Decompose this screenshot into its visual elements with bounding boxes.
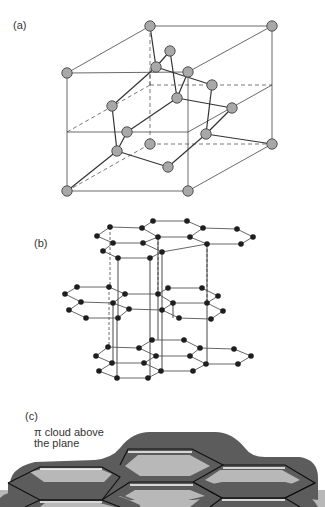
carbon-atom	[149, 337, 155, 343]
carbon-atom	[107, 224, 113, 230]
carbon-bond	[67, 151, 117, 191]
carbon-atom	[207, 80, 217, 90]
cube-edge	[188, 26, 272, 72]
carbon-bond	[117, 151, 168, 167]
carbon-atom	[234, 226, 240, 232]
carbon-atom	[200, 225, 206, 231]
graphene-bond	[179, 318, 211, 319]
graphene-bond	[69, 310, 86, 318]
carbon-atom	[159, 249, 165, 255]
carbon-atom	[105, 344, 111, 350]
carbon-atom	[183, 186, 193, 196]
carbon-atom	[140, 240, 146, 246]
carbon-atom	[184, 218, 190, 224]
carbon-atom	[100, 248, 106, 254]
carbon-atom	[122, 127, 132, 137]
panel-a-label: (a)	[13, 19, 26, 31]
graphene-bond	[162, 244, 207, 252]
carbon-atom	[145, 139, 155, 149]
carbon-atom	[235, 361, 241, 367]
carbon-atom	[107, 101, 117, 111]
pi-cloud-light-fill-1	[30, 469, 112, 482]
carbon-bond	[150, 26, 156, 67]
graphene-bond	[110, 227, 142, 228]
carbon-atom	[74, 284, 80, 290]
carbon-atom	[220, 308, 226, 314]
carbon-atom	[267, 139, 277, 149]
graphene-bond	[143, 243, 162, 252]
graphene-bond	[139, 348, 156, 356]
carbon-atom	[197, 345, 203, 351]
carbon-atom	[187, 353, 193, 359]
carbon-bond	[206, 134, 272, 144]
carbon-atom	[141, 360, 147, 366]
carbon-atom	[187, 234, 193, 240]
carbon-atom	[183, 67, 193, 77]
carbon-atom	[201, 129, 211, 139]
carbon-atom	[159, 307, 165, 313]
carbon-atom	[181, 337, 187, 343]
carbon-atom	[136, 345, 142, 351]
carbon-atom	[165, 46, 175, 56]
graphene-bond	[200, 348, 234, 349]
carbon-atom	[66, 307, 72, 313]
carbon-bond	[177, 98, 232, 108]
carbon-atom	[145, 21, 155, 31]
carbon-bond	[170, 51, 177, 98]
carbon-atom	[126, 306, 132, 312]
graphene-bond	[99, 371, 117, 378]
carbon-atom	[122, 291, 128, 297]
carbon-atom	[238, 241, 244, 247]
carbon-atom	[62, 291, 68, 297]
carbon-atom	[204, 241, 210, 247]
carbon-atom	[106, 284, 112, 290]
carbon-atom	[147, 255, 153, 261]
carbon-atom	[110, 240, 116, 246]
carbon-atom	[250, 234, 256, 240]
carbon-atom	[172, 93, 182, 103]
cube-edge	[188, 144, 272, 191]
carbon-atom	[150, 218, 156, 224]
cube-edge	[67, 72, 188, 73]
carbon-atom	[199, 285, 205, 291]
carbon-atom	[109, 360, 115, 366]
carbon-atom	[62, 186, 72, 196]
carbon-atom	[204, 300, 210, 306]
diamond-structure	[62, 21, 277, 196]
carbon-atom	[115, 315, 121, 321]
carbon-atom	[83, 315, 89, 321]
graphene-bond	[162, 310, 179, 318]
carbon-atom	[215, 293, 221, 299]
cube-edge-hidden	[67, 144, 150, 191]
graphene-bond	[203, 228, 237, 229]
carbon-atom	[208, 316, 214, 322]
graphene-bond	[81, 302, 113, 303]
pi-cloud-light-band-2	[125, 490, 205, 500]
carbon-bond	[206, 85, 212, 134]
panel-b-label: (b)	[34, 237, 47, 249]
carbon-atom	[227, 103, 237, 113]
carbon-bond	[168, 134, 206, 167]
graphene-bond	[129, 309, 162, 310]
graphite-structure	[62, 218, 256, 381]
carbon-atom	[94, 233, 100, 239]
carbon-atom	[96, 368, 102, 374]
carbon-atom	[110, 300, 116, 306]
carbon-atom	[165, 285, 171, 291]
carbon-atom	[139, 225, 145, 231]
carbon-atom	[158, 368, 164, 374]
carbon-atom	[145, 375, 151, 381]
carbon-atom	[155, 234, 161, 240]
carbon-atom	[248, 353, 254, 359]
carbon-atom	[151, 62, 161, 72]
pi-cloud-annotation-line2: the plane	[34, 438, 79, 449]
carbon-atom	[153, 353, 159, 359]
carbon-atom	[203, 361, 209, 367]
cube-edge	[67, 26, 150, 73]
carbon-atom	[170, 300, 176, 306]
panel-c-label: (c)	[25, 410, 38, 422]
carbon-atom	[93, 353, 99, 359]
carbon-atom	[62, 68, 72, 78]
carbon-atom	[112, 146, 122, 156]
carbon-atom	[155, 291, 161, 297]
